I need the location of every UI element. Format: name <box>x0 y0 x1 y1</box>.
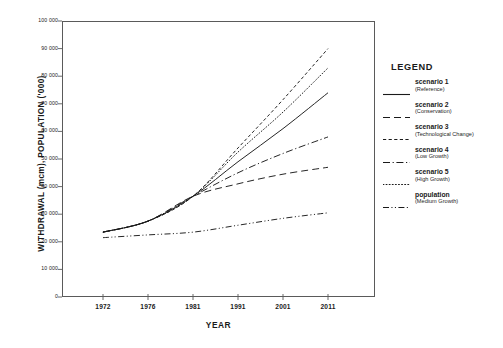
legend-series-name: scenario 5 <box>415 168 450 176</box>
legend-line-swatch <box>383 195 410 198</box>
legend-series-name: population <box>415 191 458 199</box>
series-line <box>103 49 328 233</box>
chart-figure: 010 00020 00030 00040 00050 00060 00070 … <box>0 0 503 348</box>
legend-title: LEGEND <box>391 62 503 72</box>
legend-series-sublabel: (Reference) <box>415 86 449 93</box>
legend-item: scenario 2(Conservation) <box>383 102 503 119</box>
legend-series-sublabel: (Medium Growth) <box>415 198 458 205</box>
legend-line-swatch <box>383 105 410 108</box>
series-line <box>103 137 328 232</box>
series-line <box>103 68 328 232</box>
legend-series-sublabel: (Low Growth) <box>415 153 449 160</box>
series-line <box>103 93 328 232</box>
legend-line-swatch <box>383 82 410 85</box>
legend-item: population(Medium Growth) <box>383 192 503 209</box>
legend-line-swatch <box>383 127 410 130</box>
legend-series-name: scenario 1 <box>415 78 449 86</box>
legend-entries: scenario 1(Reference)scenario 2(Conserva… <box>383 79 503 209</box>
legend-series-sublabel: (High Growth) <box>415 176 450 183</box>
legend-series-name: scenario 2 <box>415 101 452 109</box>
legend-series-sublabel: (Technological Change) <box>415 131 474 138</box>
legend-line-swatch <box>383 172 410 175</box>
legend-item: scenario 5(High Growth) <box>383 169 503 186</box>
legend-series-sublabel: (Conservation) <box>415 108 452 115</box>
legend-series-name: scenario 3 <box>415 123 474 131</box>
chart-legend: LEGEND scenario 1(Reference)scenario 2(C… <box>383 62 503 214</box>
legend-series-name: scenario 4 <box>415 146 449 154</box>
series-line <box>103 167 328 232</box>
legend-line-swatch <box>383 150 410 153</box>
legend-item: scenario 1(Reference) <box>383 79 503 96</box>
legend-item: scenario 4(Low Growth) <box>383 147 503 164</box>
legend-item: scenario 3(Technological Change) <box>383 124 503 141</box>
